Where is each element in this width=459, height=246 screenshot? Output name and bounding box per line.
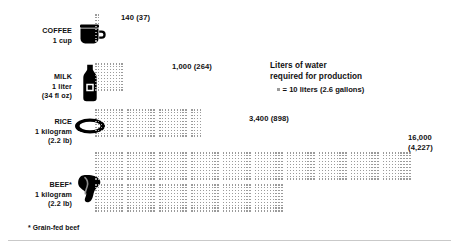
dot-unit [273, 205, 275, 207]
dot-unit [174, 152, 176, 154]
dot-unit [119, 109, 121, 111]
dot-unit [217, 176, 219, 178]
dot-unit [148, 133, 150, 135]
dot-unit [194, 118, 196, 120]
dot-unit [287, 152, 289, 154]
dot-unit [101, 158, 103, 160]
legend-key: = 10 liters (2.6 gallons) [277, 85, 430, 94]
dot-unit [119, 152, 121, 154]
dot-unit [270, 210, 272, 212]
dot-unit [214, 161, 216, 163]
dot-unit [363, 161, 365, 163]
dot-unit [249, 155, 251, 157]
dot-unit [261, 155, 263, 157]
dot-unit [223, 164, 225, 166]
dot-unit [168, 158, 170, 160]
dot-unit [313, 173, 315, 175]
dot-unit [209, 173, 211, 175]
dot-unit [119, 170, 121, 172]
dot-unit [392, 176, 394, 178]
dot-unit [119, 121, 121, 123]
dot-unit [185, 152, 187, 154]
dot-unit [400, 155, 402, 157]
dot-unit [238, 161, 240, 163]
dot-unit [305, 167, 307, 169]
dot-unit [357, 158, 359, 160]
dot-unit [121, 78, 123, 80]
dot-unit [197, 202, 199, 204]
dot-unit [403, 155, 405, 157]
dot-unit [110, 75, 112, 77]
dot-unit [194, 124, 196, 126]
dot-unit [337, 152, 339, 154]
dot-unit [238, 173, 240, 175]
dot-unit [174, 118, 176, 120]
dot-unit [116, 193, 118, 195]
dot-unit [159, 161, 161, 163]
dot-unit [107, 202, 109, 204]
dot-unit [290, 164, 292, 166]
dot-unit [113, 118, 115, 120]
dot-unit [345, 155, 347, 157]
dot-unit [249, 184, 251, 186]
dot-unit [278, 173, 280, 175]
dot-unit [101, 75, 103, 77]
dot-unit [104, 118, 106, 120]
dot-unit [398, 176, 400, 178]
dot-unit [185, 202, 187, 204]
dot-unit [290, 173, 292, 175]
dot-unit [232, 167, 234, 169]
dot-unit [334, 161, 336, 163]
dot-unit [217, 190, 219, 192]
dot-unit [351, 152, 353, 154]
dot-unit [403, 161, 405, 163]
dot-unit [403, 158, 405, 160]
dot-unit [110, 173, 112, 175]
dot-unit [363, 170, 365, 172]
dot-unit [142, 118, 144, 120]
dot-unit [136, 196, 138, 198]
dot-unit [165, 210, 167, 212]
dot-unit [95, 115, 97, 117]
dot-unit [139, 112, 141, 114]
dot-unit [95, 35, 97, 37]
dot-unit [148, 210, 150, 212]
dot-unit [345, 173, 347, 175]
dot-unit [331, 173, 333, 175]
dot-unit [305, 164, 307, 166]
dot-unit [162, 161, 164, 163]
dot-unit [392, 161, 394, 163]
dot-unit [159, 152, 161, 154]
dot-unit [261, 193, 263, 195]
dot-unit [119, 196, 121, 198]
dot-unit [200, 118, 202, 120]
dot-unit [113, 121, 115, 123]
dot-unit [203, 170, 205, 172]
dot-unit [104, 127, 106, 129]
dot-unit [142, 161, 144, 163]
dot-unit [238, 167, 240, 169]
dot-unit [270, 155, 272, 157]
dot-unit [127, 115, 129, 117]
dot-unit [267, 164, 269, 166]
dot-unit [159, 178, 161, 180]
dot-unit [101, 124, 103, 126]
dot-unit [171, 167, 173, 169]
dot-unit [200, 135, 202, 137]
dot-unit [226, 207, 228, 209]
dot-unit [150, 178, 152, 180]
dot-unit [278, 178, 280, 180]
dot-unit [145, 124, 147, 126]
dot-unit [325, 158, 327, 160]
dot-unit [389, 164, 391, 166]
dot-unit [136, 115, 138, 117]
dot-unit [400, 178, 402, 180]
dot-unit [366, 170, 368, 172]
dot-unit [145, 112, 147, 114]
dot-unit [334, 176, 336, 178]
dot-unit [162, 130, 164, 132]
dot-unit [168, 133, 170, 135]
dot-unit [249, 161, 251, 163]
dot-unit [150, 109, 152, 111]
dot-unit [377, 152, 379, 154]
